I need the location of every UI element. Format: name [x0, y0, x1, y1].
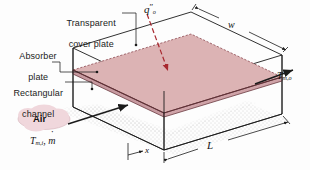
length-symbol: L	[207, 139, 213, 151]
heat-flux-subscript: o	[153, 8, 156, 15]
width-symbol: w	[228, 19, 235, 30]
mass-flow-rate-symbol: m	[48, 135, 55, 146]
cover-plate-label-line2: cover plate	[69, 39, 114, 49]
heat-flux-symbol: q″o	[144, 2, 156, 15]
x-axis-arrow	[128, 143, 143, 160]
inlet-conditions-symbol: Tm,i, m	[30, 135, 56, 146]
solar-air-heater-figure: Transparent cover plate Absorber plate R…	[0, 0, 310, 170]
air-label: Air	[33, 113, 46, 124]
x-axis-symbol: x	[145, 145, 149, 155]
outlet-temperature-symbol: Tm,o	[277, 70, 292, 81]
absorber-plate-label-line1: Absorber	[19, 51, 56, 61]
cover-plate-label-line1: Transparent	[66, 18, 115, 28]
outlet-temp-subscript: m,o	[283, 74, 292, 81]
channel-label-line1: Rectangular	[13, 88, 63, 98]
